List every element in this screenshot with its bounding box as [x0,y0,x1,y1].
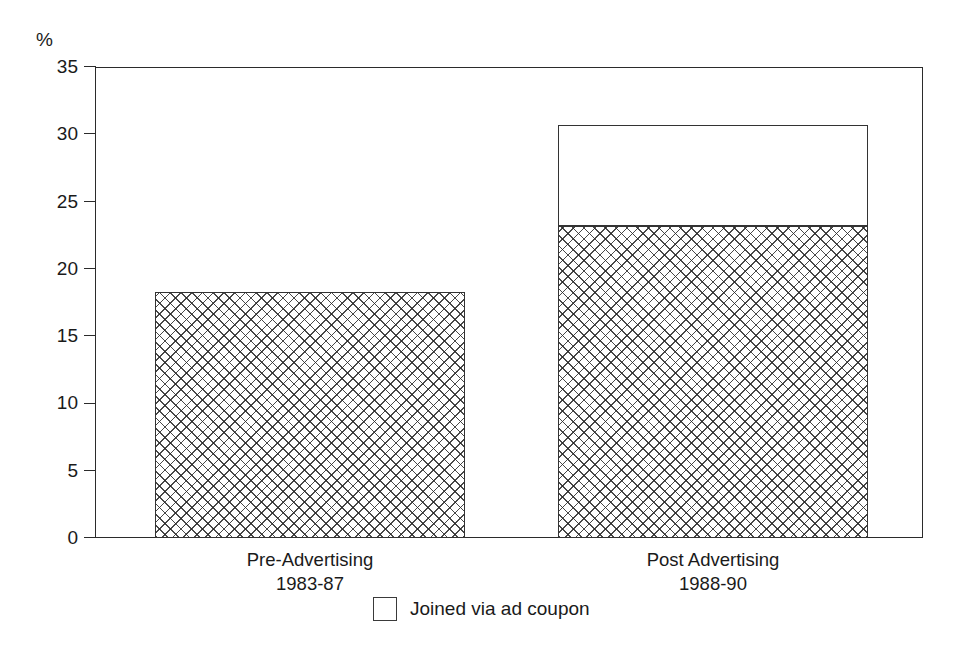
y-axis-tick-label: 0 [34,528,78,547]
y-axis-unit-label: % [36,30,53,50]
y-axis-tick [84,66,96,67]
y-axis-tick [84,201,96,202]
legend-item-label: Joined via ad coupon [410,599,590,619]
y-axis-tick-label: 30 [34,124,78,143]
y-axis-tick [84,537,96,538]
x-axis-category-line1: Post Advertising [553,548,873,572]
y-axis-tick-label-wrap: 25 [26,192,78,211]
x-axis-category-label: Pre-Advertising1983-87 [150,548,470,596]
y-axis-tick-label: 10 [34,393,78,412]
legend-swatch-icon [373,597,397,621]
y-axis-tick-label: 35 [34,57,78,76]
y-axis-tick [84,470,96,471]
y-axis-tick-label-wrap: 20 [26,259,78,278]
y-axis-tick [84,133,96,134]
plot-area [95,67,923,538]
x-axis-category-line2: 1988-90 [553,572,873,596]
y-axis-tick-label-wrap: 30 [26,124,78,143]
y-axis-tick-label-wrap: 10 [26,393,78,412]
y-axis-tick-label-wrap: 35 [26,57,78,76]
y-axis-tick-label: 15 [34,326,78,345]
x-axis-category-line2: 1983-87 [150,572,470,596]
x-axis-category-line1: Pre-Advertising [150,548,470,572]
y-axis-tick-label-wrap: 5 [26,461,78,480]
y-axis-tick-label: 25 [34,192,78,211]
y-axis-tick-label-wrap: 15 [26,326,78,345]
chart-legend: Joined via ad coupon [373,597,590,621]
y-axis-tick [84,268,96,269]
y-axis-tick [84,335,96,336]
y-axis-tick-label: 5 [34,461,78,480]
y-axis-tick-label: 20 [34,259,78,278]
chart-container: % 05101520253035 Pre-Advertising1983-87P… [0,0,971,652]
y-axis-tick-label-wrap: 0 [26,528,78,547]
x-axis-category-label: Post Advertising1988-90 [553,548,873,596]
y-axis-tick [84,403,96,404]
